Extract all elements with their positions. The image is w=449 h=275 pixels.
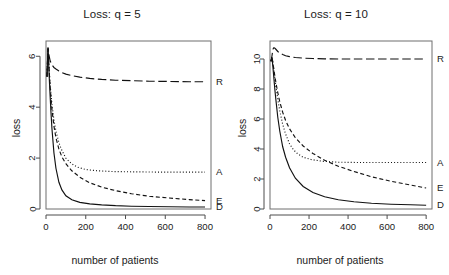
- y-tick-label: 10: [251, 54, 262, 65]
- x-tick-label: 800: [197, 221, 213, 232]
- y-axis-title-left: loss: [10, 105, 22, 151]
- figure-loss-curves: Loss: q = 5 02004006008000246RAED loss n…: [0, 0, 449, 275]
- y-tick-label: 4: [27, 104, 38, 110]
- y-tick-label: 2: [27, 155, 38, 160]
- series-label-d: D: [437, 199, 444, 210]
- curve-a: [47, 49, 205, 172]
- x-axis-title-left: number of patients: [6, 254, 224, 266]
- panel-loss-q5: Loss: q = 5 02004006008000246RAED loss n…: [0, 0, 224, 275]
- curve-r: [47, 47, 205, 81]
- curve-a: [271, 57, 426, 163]
- series-label-a: A: [437, 157, 444, 168]
- y-tick-label: 0: [27, 206, 38, 211]
- curve-d: [47, 49, 205, 207]
- series-label-r: R: [216, 76, 223, 87]
- y-tick-label: 6: [251, 116, 262, 121]
- curve-e: [47, 49, 205, 201]
- series-label-e: E: [437, 182, 443, 193]
- series-label-r: R: [437, 53, 444, 64]
- y-tick-label: 8: [251, 86, 262, 91]
- series-label-d: D: [216, 201, 223, 212]
- plot-area-left: 02004006008000246RAED: [0, 0, 224, 275]
- x-tick-label: 200: [301, 221, 317, 232]
- y-tick-label: 4: [251, 146, 262, 152]
- curve-e: [271, 57, 426, 188]
- curve-d: [271, 58, 426, 206]
- y-tick-label: 2: [251, 176, 262, 181]
- x-tick-label: 200: [78, 221, 94, 232]
- x-tick-label: 0: [267, 221, 272, 232]
- x-tick-label: 0: [43, 221, 48, 232]
- x-tick-label: 600: [379, 221, 395, 232]
- x-tick-label: 800: [418, 221, 434, 232]
- curve-r: [271, 48, 426, 62]
- x-tick-label: 600: [157, 221, 173, 232]
- y-axis-title-right: loss: [236, 105, 248, 151]
- x-tick-label: 400: [118, 221, 134, 232]
- x-tick-label: 400: [340, 221, 356, 232]
- series-label-a: A: [216, 166, 223, 177]
- panel-loss-q10: Loss: q = 10 02004006008000246810RAED lo…: [224, 0, 448, 275]
- y-tick-label: 6: [27, 54, 38, 59]
- plot-area-right: 02004006008000246810RAED: [224, 0, 448, 275]
- x-axis-title-right: number of patients: [232, 254, 448, 266]
- y-tick-label: 0: [251, 206, 262, 211]
